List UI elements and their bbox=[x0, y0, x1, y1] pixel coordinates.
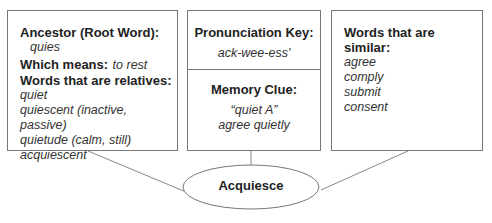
relative-item: quietude (calm, still) bbox=[20, 133, 177, 148]
similar-item: agree bbox=[344, 55, 482, 70]
ancestor-value: quies bbox=[20, 40, 177, 55]
center-word: Acquiesce bbox=[183, 178, 319, 193]
pronunciation-memory-box: Pronunciation Key: ack-wee-ess' Memory C… bbox=[187, 10, 321, 151]
memory-heading: Memory Clue: bbox=[188, 82, 320, 97]
pronunciation-value: ack-wee-ess' bbox=[188, 46, 320, 61]
ancestor-heading: Ancestor (Root Word): bbox=[20, 25, 177, 40]
similar-heading: Words that are similar: bbox=[344, 25, 482, 55]
means-heading: Which means: bbox=[20, 57, 108, 72]
similar-item: submit bbox=[344, 85, 482, 100]
relative-item: quiet bbox=[20, 88, 177, 103]
similar-item: comply bbox=[344, 70, 482, 85]
vocabulary-word-map: Acquiesce Ancestor (Root Word): quies Wh… bbox=[0, 0, 492, 223]
similar-words-box: Words that are similar: agree comply sub… bbox=[331, 10, 483, 151]
means-value: to rest bbox=[113, 58, 148, 72]
similar-item: consent bbox=[344, 100, 482, 115]
relatives-heading: Words that are relatives: bbox=[20, 73, 177, 88]
memory-line: “quiet A” bbox=[188, 103, 320, 118]
memory-section: Memory Clue: “quiet A” agree quietly bbox=[188, 70, 320, 133]
relative-item: quiescent (inactive, passive) bbox=[20, 103, 177, 133]
relative-item: acquiescent bbox=[20, 148, 177, 163]
pronunciation-heading: Pronunciation Key: bbox=[188, 25, 320, 40]
means-row: Which means: to rest bbox=[20, 55, 177, 73]
pronunciation-section: Pronunciation Key: ack-wee-ess' bbox=[188, 11, 320, 70]
root-word-box: Ancestor (Root Word): quies Which means:… bbox=[7, 10, 178, 151]
memory-line: agree quietly bbox=[188, 118, 320, 133]
